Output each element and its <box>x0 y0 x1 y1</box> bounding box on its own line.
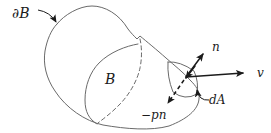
label-body-B: B <box>104 71 115 87</box>
label-pressure-traction-pn: −pn <box>141 108 166 122</box>
figure-canvas: ∂B B n v dA −pn <box>0 0 271 133</box>
label-boundary-dB: ∂B <box>12 5 30 21</box>
label-velocity-v: v <box>257 66 264 80</box>
body-with-surface-element-diagram: ∂B B n v dA −pn <box>0 0 271 133</box>
label-normal-n: n <box>212 40 220 54</box>
body-outline <box>44 6 199 129</box>
label-area-element-dA: dA <box>209 93 226 107</box>
boundary-leader-arrow <box>38 10 56 22</box>
